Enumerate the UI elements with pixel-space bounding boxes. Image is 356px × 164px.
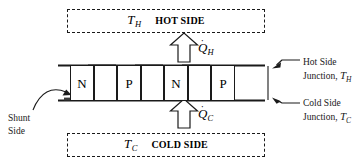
pillar-blank-1	[94, 65, 117, 101]
shunt-line2: Side	[8, 125, 30, 138]
heat-flux-hot-arrow	[171, 33, 198, 62]
hot-junction-annotation: Hot Side Junction, TH	[303, 56, 352, 86]
q-subscript: H	[207, 47, 213, 57]
pillar-label: P	[125, 76, 132, 89]
q-dot-accent: ˙	[201, 103, 205, 115]
pillar-blank-2	[141, 65, 164, 101]
heat-flux-cold-label: ˙QC	[198, 106, 213, 123]
cold-junction-line2: Junction, TC	[303, 110, 351, 127]
cold-junction-leader	[272, 98, 300, 104]
heat-flux-cold-arrow	[171, 99, 198, 128]
hot-side-reservoir: TH HOT SIDE	[67, 9, 265, 33]
cold-junction-line1: Cold Side	[303, 97, 351, 110]
pillar-p-2: P	[211, 65, 235, 101]
shunt-annotation: Shunt Side	[8, 112, 30, 138]
pillar-label: N	[77, 76, 86, 89]
heat-flux-hot-label: ˙QH	[198, 40, 214, 57]
pillar-n-2: N	[164, 65, 188, 101]
hot-temp-symbol: TH	[127, 12, 141, 29]
shunt-line1: Shunt	[8, 112, 30, 125]
q-dot-accent: ˙	[201, 37, 205, 49]
cold-side-reservoir: TC COLD SIDE	[67, 133, 265, 157]
pillar-p-1: P	[117, 65, 141, 101]
hot-junction-line2: Junction, TH	[303, 69, 352, 86]
hot-junction-line1: Hot Side	[303, 56, 352, 69]
pillar-label: N	[171, 76, 180, 89]
pillar-label: P	[219, 76, 226, 89]
diagram-canvas: TH HOT SIDE TC COLD SIDE N P N P ˙QH ˙QC	[0, 0, 356, 164]
pillar-n-1: N	[70, 65, 94, 101]
hot-junction-leader	[272, 60, 300, 69]
pillar-blank-3	[188, 65, 211, 101]
cold-temp-symbol: TC	[124, 136, 137, 153]
q-subscript: C	[207, 113, 213, 123]
cold-junction-annotation: Cold Side Junction, TC	[303, 97, 351, 127]
hot-side-label: HOT SIDE	[155, 15, 205, 26]
cold-side-label: COLD SIDE	[151, 139, 208, 150]
